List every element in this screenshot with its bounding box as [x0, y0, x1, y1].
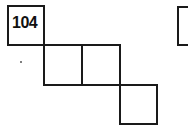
- grid-cell[interactable]: [81, 44, 121, 86]
- clue-number: 104: [12, 14, 37, 32]
- stray-dot: [20, 61, 22, 63]
- grid-cell-partial[interactable]: [177, 6, 188, 46]
- grid-cell[interactable]: [43, 44, 83, 86]
- grid-cell[interactable]: [119, 84, 158, 125]
- grid-cell-numbered[interactable]: 104: [7, 5, 45, 46]
